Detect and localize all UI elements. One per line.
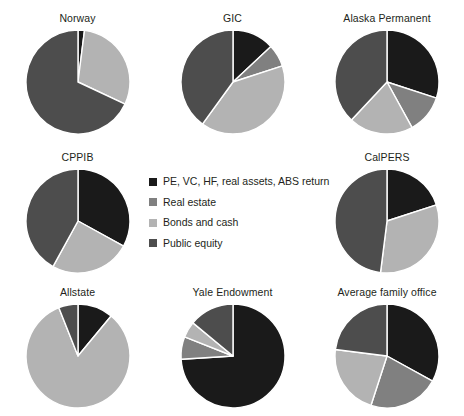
pie-title: CPPIB — [61, 151, 93, 163]
legend-swatch-icon — [149, 178, 157, 186]
pie-chart — [24, 302, 132, 410]
pie-cell: CPPIB — [0, 145, 155, 281]
legend-item-label: Public equity — [163, 238, 223, 249]
pie-chart — [333, 302, 441, 410]
legend-item-label: Real estate — [163, 197, 216, 208]
legend-swatch-icon — [149, 198, 157, 206]
pie-title: Average family office — [337, 286, 436, 298]
pie-chart — [24, 28, 132, 136]
legend-item[interactable]: PE, VC, HF, real assets, ABS return — [149, 176, 329, 187]
pie-slice — [335, 169, 387, 273]
legend-item[interactable]: Real estate — [149, 197, 329, 208]
pie-wrap — [333, 167, 441, 275]
pie-cell: Allstate — [0, 281, 155, 416]
pie-chart — [333, 28, 441, 136]
pie-title: GIC — [223, 12, 242, 24]
pie-wrap — [24, 28, 132, 136]
pie-slice — [335, 304, 387, 356]
pie-wrap — [179, 302, 287, 410]
pie-title: Yale Endowment — [192, 286, 272, 298]
pie-cell: Average family office — [310, 281, 464, 416]
pie-title: Alaska Permanent — [343, 12, 430, 24]
pie-cell: CalPERS — [310, 145, 464, 281]
pie-chart — [179, 28, 287, 136]
pie-title: Norway — [59, 12, 95, 24]
pie-wrap — [179, 28, 287, 136]
pie-wrap — [24, 302, 132, 410]
pie-cell: Alaska Permanent — [310, 0, 464, 145]
pie-cell: Norway — [0, 0, 155, 145]
legend-item[interactable]: Public equity — [149, 238, 329, 249]
pie-cell: Yale Endowment — [155, 281, 310, 416]
pie-title: Allstate — [60, 286, 95, 298]
pie-chart — [333, 167, 441, 275]
pie-chart — [24, 167, 132, 275]
pie-cell: GIC — [155, 0, 310, 145]
legend-item-label: PE, VC, HF, real assets, ABS return — [163, 176, 329, 187]
pie-wrap — [333, 302, 441, 410]
pie-wrap — [24, 167, 132, 275]
legend-item[interactable]: Bonds and cash — [149, 217, 329, 228]
chart-legend: PE, VC, HF, real assets, ABS returnReal … — [149, 176, 329, 249]
pie-title: CalPERS — [364, 151, 409, 163]
legend-swatch-icon — [149, 239, 157, 247]
legend-item-label: Bonds and cash — [163, 217, 238, 228]
pie-wrap — [333, 28, 441, 136]
legend-swatch-icon — [149, 219, 157, 227]
pie-chart — [179, 302, 287, 410]
